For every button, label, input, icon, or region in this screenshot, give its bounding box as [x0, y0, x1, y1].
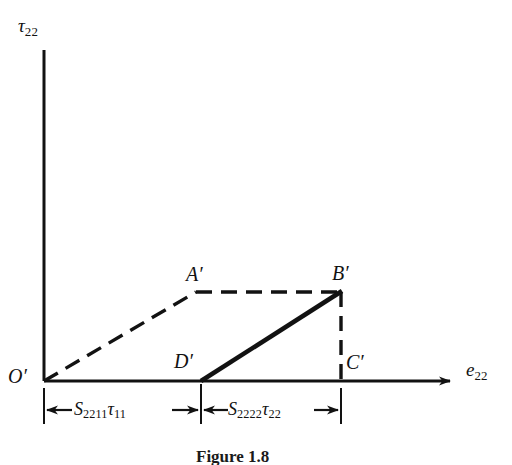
- point-label-C-prime: C′: [346, 352, 364, 372]
- point-label-A-prime: A′: [186, 264, 203, 284]
- point-label-O-prime: O′: [8, 366, 27, 386]
- stress-strain-diagram: [0, 0, 512, 465]
- figure-container: τ22 e22 O′ A′ B′ D′ C′ S2211τ11 S2222τ22…: [0, 0, 512, 465]
- dimension-label-s2211-tau11: S2211τ11: [74, 400, 126, 421]
- y-axis-label-subscript: 22: [25, 24, 38, 39]
- x-axis-label-subscript: 22: [474, 368, 487, 383]
- y-axis-label: τ22: [18, 16, 38, 39]
- x-axis-label: e22: [466, 360, 488, 383]
- dimension-label-s2222-tau22: S2222τ22: [228, 400, 281, 421]
- point-label-B-prime: B′: [332, 263, 349, 283]
- figure-caption: Figure 1.8: [196, 448, 269, 465]
- point-label-D-prime: D′: [174, 351, 193, 371]
- segment-DB-solid: [201, 291, 342, 381]
- y-axis-label-symbol: τ: [18, 15, 25, 36]
